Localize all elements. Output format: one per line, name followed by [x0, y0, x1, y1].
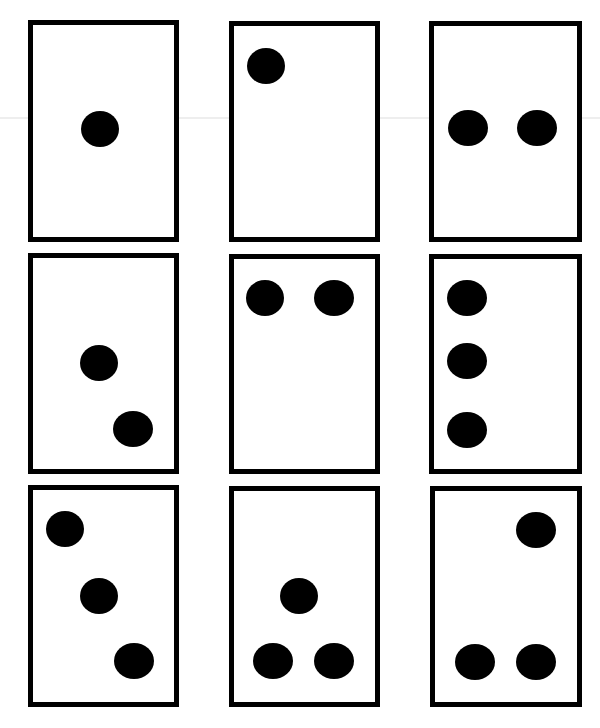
dot-icon [516, 512, 556, 548]
dot-icon [448, 110, 488, 146]
dot-icon [247, 48, 285, 84]
dot-icon [447, 412, 487, 448]
card-9 [430, 486, 582, 707]
dot-icon [81, 111, 119, 147]
dot-icon [517, 110, 557, 146]
dot-icon [455, 644, 495, 680]
dot-icon [516, 644, 556, 680]
dot-icon [280, 578, 318, 614]
dot-icon [46, 511, 84, 547]
dot-icon [246, 280, 284, 316]
dot-icon [80, 345, 118, 381]
dot-icon [314, 280, 354, 316]
dot-icon [114, 643, 154, 679]
dot-icon [113, 411, 153, 447]
dot-icon [80, 578, 118, 614]
dot-icon [253, 643, 293, 679]
dot-icon [314, 643, 354, 679]
dot-icon [447, 343, 487, 379]
dot-icon [447, 280, 487, 316]
